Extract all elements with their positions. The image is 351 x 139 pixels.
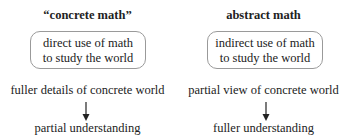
- abstract-math-column: abstract math indirect use of math to st…: [176, 0, 351, 139]
- result-text: partial understanding: [0, 121, 175, 136]
- method-box: indirect use of math to study the world: [207, 31, 323, 69]
- box-line: to study the world: [208, 51, 322, 66]
- method-box: direct use of math to study the world: [30, 31, 146, 69]
- box-line: direct use of math: [31, 36, 145, 51]
- down-arrow-icon: [261, 102, 271, 122]
- detail-text: partial view of concrete world: [176, 83, 351, 98]
- box-line: to study the world: [31, 51, 145, 66]
- down-arrow-icon: [81, 102, 91, 122]
- detail-text: fuller details of concrete world: [0, 83, 175, 98]
- concrete-math-column: “concrete math” direct use of math to st…: [0, 0, 175, 139]
- column-title: abstract math: [176, 8, 351, 23]
- column-title: “concrete math”: [0, 8, 175, 23]
- result-text: fuller understanding: [176, 121, 351, 136]
- box-line: indirect use of math: [208, 36, 322, 51]
